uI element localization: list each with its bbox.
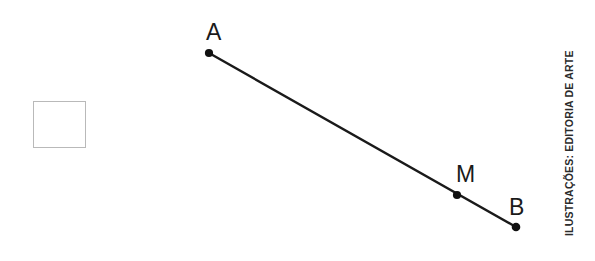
segment-ab (209, 53, 516, 227)
point-label-b: B (509, 196, 524, 219)
point-label-a: A (206, 21, 221, 44)
answer-box[interactable] (33, 101, 86, 148)
illustration-credit: ILUSTRAÇÕES: EDITORIA DE ARTE (562, 6, 576, 236)
point-b-dot (512, 223, 521, 232)
point-a-dot (205, 49, 213, 57)
line-segment-figure (0, 0, 595, 261)
point-m-dot (453, 191, 461, 199)
point-label-m: M (456, 163, 475, 186)
